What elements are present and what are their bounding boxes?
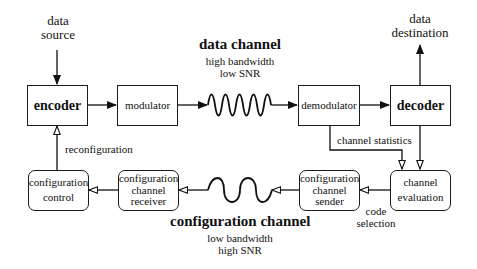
demodulator-label: demodulator xyxy=(301,100,357,112)
configuration-channel-label: configuration channel low bandwidth high… xyxy=(170,213,310,256)
sender-line1: configuration xyxy=(300,173,359,185)
configuration-channel-sender-block: configuration channel sender xyxy=(299,170,360,211)
evaluation-line2: evaluation xyxy=(398,192,444,204)
data-source-label: data source xyxy=(28,14,88,43)
decoder-label: decoder xyxy=(397,98,444,114)
configuration-channel-bandwidth: low bandwidth xyxy=(170,232,310,244)
decoder-block: decoder xyxy=(390,85,451,126)
configuration-control-line2: control xyxy=(43,192,74,204)
code-selection-line1: code xyxy=(352,206,400,218)
data-source-line1: data xyxy=(28,14,88,28)
arrow-channel-statistics xyxy=(330,126,402,169)
configuration-channel-wave-icon xyxy=(208,178,272,202)
reconfiguration-label: reconfiguration xyxy=(65,144,133,156)
data-source-line2: source xyxy=(28,28,88,42)
modulator-label: modulator xyxy=(125,100,170,112)
data-destination-label: data destination xyxy=(380,12,460,41)
configuration-channel-receiver-block: configuration channel receiver xyxy=(118,170,179,211)
channel-statistics-label: channel statistics xyxy=(337,135,412,147)
demodulator-block: demodulator xyxy=(298,85,360,126)
data-channel-wave-icon xyxy=(208,95,271,116)
evaluation-line1: channel xyxy=(403,177,437,189)
configuration-control-block: configuration control xyxy=(28,170,89,211)
code-selection-label: code selection xyxy=(352,206,400,229)
modulator-block: modulator xyxy=(117,85,178,126)
configuration-channel-title: configuration channel xyxy=(170,213,310,230)
data-channel-label: data channel high bandwidth low SNR xyxy=(190,36,290,79)
data-destination-line1: data xyxy=(380,12,460,26)
sender-line3: sender xyxy=(315,196,344,208)
receiver-line3: receiver xyxy=(131,196,166,208)
data-channel-title: data channel xyxy=(190,36,290,53)
code-selection-line2: selection xyxy=(352,218,400,230)
data-channel-snr: low SNR xyxy=(190,67,290,79)
configuration-control-line1: configuration xyxy=(29,177,88,189)
data-destination-line2: destination xyxy=(380,26,460,40)
data-channel-bandwidth: high bandwidth xyxy=(190,55,290,67)
receiver-line1: configuration xyxy=(119,173,178,185)
channel-evaluation-block: channel evaluation xyxy=(390,170,451,211)
encoder-label: encoder xyxy=(34,98,81,114)
configuration-channel-snr: high SNR xyxy=(170,244,310,256)
encoder-block: encoder xyxy=(27,85,88,126)
